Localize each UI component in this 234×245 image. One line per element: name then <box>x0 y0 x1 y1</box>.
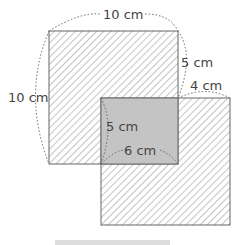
label-left-side: 10 cm <box>8 90 49 105</box>
label-overlap-width: 6 cm <box>124 143 156 158</box>
overlapping-squares-diagram: 10 cm 10 cm 5 cm 4 cm 5 cm 6 cm <box>0 0 234 245</box>
caption-cutoff <box>55 240 170 245</box>
label-right-upper: 5 cm <box>181 55 213 70</box>
label-top-side: 10 cm <box>103 7 144 22</box>
label-overlap-height: 5 cm <box>106 119 138 134</box>
label-right-offset: 4 cm <box>190 78 222 93</box>
